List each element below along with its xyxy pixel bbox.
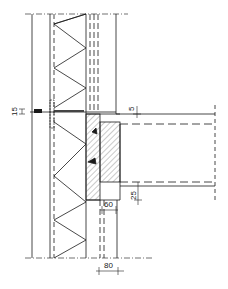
- slab-connection: [86, 114, 120, 200]
- dimension-60: 60: [100, 200, 118, 214]
- svg-text:5: 5: [127, 106, 136, 111]
- dimension-5: 5: [127, 106, 141, 118]
- svg-text:80: 80: [104, 261, 113, 270]
- svg-text:15: 15: [10, 107, 19, 116]
- dimension-15: 15: [10, 107, 25, 116]
- dimension-25: 25: [129, 182, 142, 205]
- svg-text:25: 25: [129, 191, 138, 200]
- section-drawing: 15 5 25 60 80: [0, 0, 228, 289]
- floor-joist: [116, 105, 215, 200]
- insulation-zone: [50, 14, 86, 258]
- svg-text:60: 60: [104, 200, 113, 209]
- dimension-80: 80: [96, 261, 124, 275]
